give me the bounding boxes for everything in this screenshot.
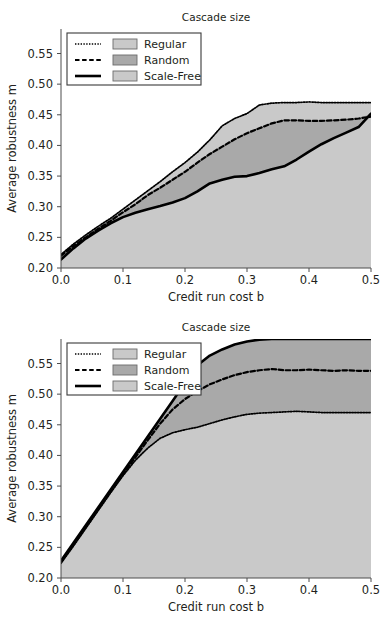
legend-label-regular: Regular: [144, 38, 187, 51]
y-tick-label: 0.20: [27, 571, 53, 585]
chart-panel-bottom: 0.00.10.20.30.40.50.200.250.300.350.400.…: [0, 309, 389, 619]
chart-title: Cascade size: [182, 11, 250, 23]
legend-patch-random: [113, 365, 137, 375]
chart-svg-top: 0.00.10.20.30.40.50.200.250.300.350.400.…: [0, 0, 389, 309]
x-axis-title: Credit run cost b: [168, 290, 264, 304]
y-tick-label: 0.55: [27, 357, 53, 371]
legend-label-random: Random: [144, 54, 190, 67]
y-tick-label: 0.25: [27, 230, 53, 244]
legend-label-random: Random: [144, 364, 190, 377]
y-tick-label: 0.45: [27, 418, 53, 432]
x-tick-label: 0.0: [52, 583, 70, 597]
chart-svg-bottom: 0.00.10.20.30.40.50.200.250.300.350.400.…: [0, 309, 389, 619]
y-axis-title: Average robustness m: [5, 84, 19, 213]
chart-legend: RegularRandomScale-Free: [67, 33, 201, 85]
legend-patch-scale-free: [113, 381, 137, 391]
x-tick-label: 0.4: [300, 583, 318, 597]
y-tick-label: 0.45: [27, 108, 53, 122]
x-tick-label: 0.2: [176, 583, 194, 597]
y-tick-label: 0.55: [27, 47, 53, 61]
x-tick-label: 0.2: [176, 273, 194, 287]
legend-label-scale-free: Scale-Free: [144, 70, 201, 83]
y-tick-label: 0.50: [27, 387, 53, 401]
x-axis-title: Credit run cost b: [168, 600, 264, 614]
figure-container: 0.00.10.20.30.40.50.200.250.300.350.400.…: [0, 0, 389, 619]
legend-patch-scale-free: [113, 71, 137, 81]
y-tick-label: 0.35: [27, 169, 53, 183]
y-tick-label: 0.50: [27, 77, 53, 91]
chart-title: Cascade size: [182, 321, 250, 333]
y-axis-title: Average robustness m: [5, 394, 19, 523]
y-tick-label: 0.30: [27, 200, 53, 214]
x-tick-label: 0.5: [362, 583, 380, 597]
x-tick-label: 0.1: [114, 273, 132, 287]
legend-patch-random: [113, 55, 137, 65]
legend-patch-regular: [113, 349, 137, 359]
y-tick-label: 0.40: [27, 448, 53, 462]
x-tick-label: 0.1: [114, 583, 132, 597]
legend-patch-regular: [113, 39, 137, 49]
y-tick-label: 0.40: [27, 138, 53, 152]
chart-legend: RegularRandomScale-Free: [67, 343, 201, 395]
y-tick-label: 0.20: [27, 261, 53, 275]
y-tick-label: 0.25: [27, 540, 53, 554]
x-tick-label: 0.4: [300, 273, 318, 287]
x-tick-label: 0.0: [52, 273, 70, 287]
legend-label-regular: Regular: [144, 348, 187, 361]
x-tick-label: 0.3: [238, 583, 256, 597]
legend-label-scale-free: Scale-Free: [144, 380, 201, 393]
y-tick-label: 0.30: [27, 510, 53, 524]
chart-panel-top: 0.00.10.20.30.40.50.200.250.300.350.400.…: [0, 0, 389, 309]
y-tick-label: 0.35: [27, 479, 53, 493]
x-tick-label: 0.3: [238, 273, 256, 287]
x-tick-label: 0.5: [362, 273, 380, 287]
